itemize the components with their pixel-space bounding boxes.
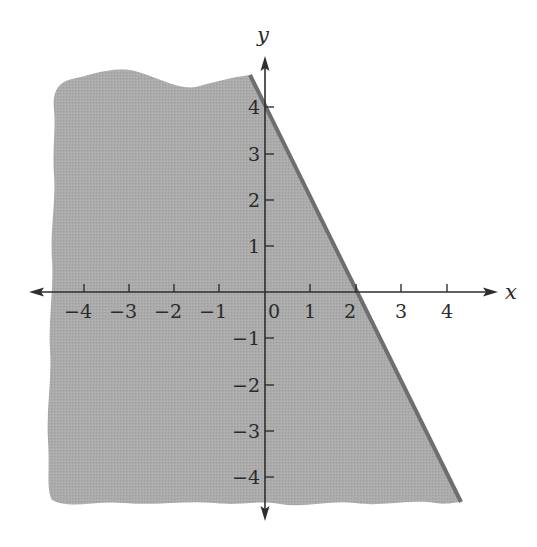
x-tick-label: −4 [64,300,92,322]
inequality-graph: x y −4 −3 −2 −1 0 1 2 3 4 4 3 2 1 [0,0,537,547]
y-tick-label: −4 [232,466,260,488]
y-tick-label: 2 [248,189,260,211]
y-axis-label: y [256,23,270,47]
x-tick-label: 2 [344,300,356,322]
y-tick-label: 3 [248,143,260,165]
x-tick-label: 1 [304,300,316,322]
x-tick-label: −1 [199,300,227,322]
x-tick-label: 4 [441,300,453,322]
y-tick-label: −1 [232,327,260,349]
y-tick-label: 1 [248,235,260,257]
x-tick-label: 0 [268,300,280,322]
x-axis-label: x [505,280,517,304]
y-tick-label: 4 [248,96,260,118]
y-tick-label: −2 [232,374,260,396]
x-tick-label: −3 [109,300,137,322]
x-tick-label: 3 [395,300,407,322]
x-tick-label: −2 [154,300,182,322]
y-tick-label: −3 [232,420,260,442]
